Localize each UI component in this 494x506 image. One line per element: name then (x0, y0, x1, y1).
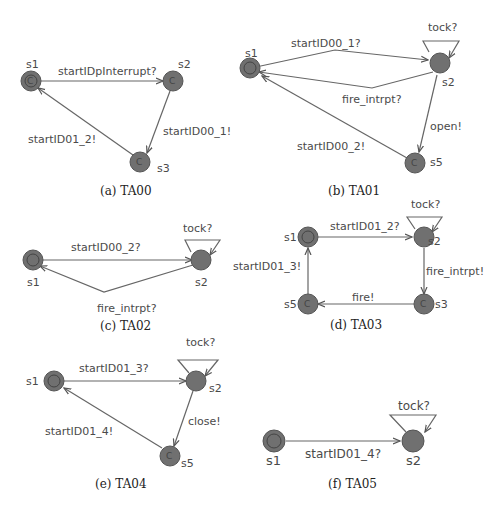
state-label: s5 (430, 156, 443, 169)
state-label: s2 (428, 235, 441, 248)
state-s1 (44, 371, 64, 391)
edge-label: startID00_2! (297, 140, 365, 153)
state-label: s2 (442, 76, 455, 89)
edge-label: fire_intrpt! (426, 265, 484, 278)
edge-label: fire! (352, 291, 374, 304)
edge-label: tock? (186, 336, 215, 349)
caption: (c) TA02 (100, 319, 151, 333)
edge-label: tock? (411, 198, 440, 211)
edge-label: startID00_2? (71, 241, 141, 254)
state-label: s2 (178, 58, 191, 71)
edge-label: tock? (183, 222, 212, 235)
caption: (e) TA04 (95, 477, 147, 491)
edge-label: startID01_2? (330, 220, 400, 233)
state-label: s2 (195, 276, 208, 289)
state-s2 (191, 250, 211, 270)
state-s2 (186, 371, 206, 391)
state-label: s2 (209, 382, 222, 395)
caption: (a) TA00 (100, 184, 152, 198)
caption: (b) TA01 (328, 184, 380, 198)
edge-label: fire_intrpt? (97, 302, 157, 315)
figure-ta01: C s1 s2 s5 startID00_1? tock? fire_intrp… (240, 21, 462, 198)
committed-marker: C (27, 76, 33, 86)
state-label: s5 (181, 457, 194, 470)
edge-s2-s5 (419, 75, 437, 152)
edge-label: startID01_4? (305, 447, 381, 461)
committed-marker: C (411, 158, 417, 168)
state-s2 (430, 53, 450, 73)
figure-ta05: s1 s2 startID01_4? tock? (f) TA05 (263, 399, 436, 491)
edge-s5-s1 (64, 388, 162, 448)
edge-label: startID01_4! (45, 425, 113, 438)
state-label: s1 (245, 47, 258, 60)
state-label: s3 (157, 162, 170, 175)
committed-marker: C (304, 299, 310, 309)
committed-marker: C (420, 299, 426, 309)
state-label: s1 (266, 453, 281, 468)
automata-figure: C C C s1 s2 s3 startIDpInterrupt? startI… (0, 0, 494, 506)
edge-label: tock? (398, 399, 430, 413)
committed-marker: C (166, 451, 172, 461)
edge-label: startID01_3! (233, 260, 301, 273)
state-label: s1 (27, 276, 40, 289)
state-s1 (298, 227, 318, 247)
state-label: s1 (26, 375, 39, 388)
state-s1 (263, 430, 285, 452)
state-s2 (402, 430, 424, 452)
edge-label: open! (430, 120, 462, 133)
state-s1 (23, 250, 43, 270)
committed-marker: C (169, 76, 175, 86)
edge-label: startID00_1! (163, 125, 231, 138)
committed-marker: C (136, 157, 142, 167)
state-label: s1 (26, 58, 39, 71)
edge-s2-s1 (259, 72, 433, 88)
edge-s2-s3 (147, 91, 170, 153)
caption: (f) TA05 (328, 477, 377, 491)
state-s1 (240, 58, 260, 78)
edge-label: startIDpInterrupt? (58, 65, 157, 78)
figure-ta02: s1 s2 startID00_2? tock? fire_intrpt? (c… (23, 222, 220, 333)
state-label: s2 (406, 453, 421, 468)
figure-ta03: C C s1 s2 s3 s5 startID01_2? tock? fire_… (233, 198, 484, 332)
edge-label: close! (188, 415, 221, 428)
edge-s2-s1 (40, 265, 193, 292)
edge-s2-tock (390, 415, 436, 432)
state-label: s1 (284, 231, 297, 244)
caption: (d) TA03 (330, 318, 382, 332)
figure-ta00: C C C s1 s2 s3 startIDpInterrupt? startI… (21, 58, 231, 198)
state-label: s3 (435, 298, 448, 311)
figure-ta04: C s1 s2 s5 startID01_3? tock? close! sta… (26, 336, 222, 491)
edge-label: tock? (428, 21, 457, 34)
edge-s1-s2 (256, 50, 428, 67)
edge-label: startID00_1? (291, 37, 361, 50)
edge-label: startID01_2! (28, 133, 96, 146)
state-label: s5 (284, 298, 297, 311)
edge-label: fire_intrpt? (342, 93, 402, 106)
edge-label: startID01_3? (79, 362, 149, 375)
